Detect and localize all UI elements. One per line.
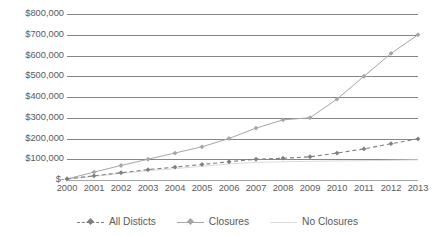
x-axis-tick-label: 2012 bbox=[381, 183, 402, 194]
series-container bbox=[67, 14, 418, 180]
x-axis-tick-labels: 2000200120022003200420052006200720082009… bbox=[67, 183, 418, 199]
legend-marker-diamond-icon bbox=[187, 218, 194, 225]
data-point-marker bbox=[281, 156, 286, 161]
data-point-marker bbox=[254, 126, 259, 131]
data-point-marker bbox=[119, 163, 124, 168]
legend-line bbox=[270, 222, 297, 223]
y-axis-tick-label: $500,000 bbox=[2, 71, 64, 80]
x-axis-tick-label: 2006 bbox=[219, 183, 240, 194]
y-axis-tick-label: $700,000 bbox=[2, 30, 64, 39]
data-point-marker bbox=[92, 173, 97, 178]
x-axis-tick-label: 2009 bbox=[300, 183, 321, 194]
y-axis-tick-label: $200,000 bbox=[2, 134, 64, 143]
legend-item-all-disticts[interactable]: All Disticts bbox=[77, 216, 156, 228]
data-point-marker bbox=[254, 157, 259, 162]
x-axis-tick-label: 2003 bbox=[138, 183, 159, 194]
legend-label: Closures bbox=[209, 216, 249, 228]
data-point-marker bbox=[146, 157, 151, 162]
legend-label: All Disticts bbox=[109, 216, 156, 228]
legend-item-no-closures[interactable]: No Closures bbox=[270, 216, 358, 228]
y-axis-tick-label: $800,000 bbox=[2, 9, 64, 18]
series-closures bbox=[65, 32, 421, 181]
y-axis-tick-label: $- bbox=[2, 175, 64, 184]
legend-label: No Closures bbox=[302, 216, 358, 228]
series-line bbox=[67, 160, 418, 179]
x-axis-tick-label: 2004 bbox=[165, 183, 186, 194]
x-axis-tick-label: 2010 bbox=[327, 183, 348, 194]
x-axis-line bbox=[67, 180, 418, 181]
x-axis-tick-label: 2002 bbox=[111, 183, 132, 194]
data-point-marker bbox=[227, 136, 232, 141]
series-line bbox=[67, 35, 418, 179]
y-axis-tick-label: $300,000 bbox=[2, 113, 64, 122]
legend-marker-diamond-icon bbox=[87, 218, 94, 225]
data-point-marker bbox=[362, 146, 367, 151]
plot-area bbox=[67, 14, 418, 180]
x-axis-tick-label: 2007 bbox=[246, 183, 267, 194]
x-axis-tick-label: 2013 bbox=[408, 183, 429, 194]
x-axis-tick-label: 2000 bbox=[57, 183, 78, 194]
x-axis-tick-label: 2005 bbox=[192, 183, 213, 194]
chart-legend: All DistictsClosuresNo Closures bbox=[0, 211, 435, 233]
x-axis-tick-label: 2008 bbox=[273, 183, 294, 194]
data-point-marker bbox=[416, 137, 421, 142]
legend-swatch-icon bbox=[270, 217, 297, 227]
legend-swatch-icon bbox=[77, 217, 104, 227]
y-axis-tick-label: $400,000 bbox=[2, 92, 64, 101]
x-axis-tick-label: 2011 bbox=[354, 183, 374, 194]
y-axis-tick-label: $600,000 bbox=[2, 51, 64, 60]
line-chart: $-$100,000$200,000$300,000$400,000$500,0… bbox=[0, 0, 435, 236]
data-point-marker bbox=[281, 117, 286, 122]
data-point-marker bbox=[335, 151, 340, 156]
series-all-disticts bbox=[65, 137, 421, 182]
series-no-closures bbox=[67, 160, 418, 179]
data-point-marker bbox=[389, 141, 394, 146]
legend-swatch-icon bbox=[177, 217, 204, 227]
y-axis-tick-label: $100,000 bbox=[2, 154, 64, 163]
y-axis-tick-labels: $-$100,000$200,000$300,000$400,000$500,0… bbox=[0, 0, 64, 236]
data-point-marker bbox=[173, 151, 178, 156]
data-point-marker bbox=[200, 144, 205, 149]
x-axis-tick-label: 2001 bbox=[84, 183, 105, 194]
legend-item-closures[interactable]: Closures bbox=[177, 216, 249, 228]
data-point-marker bbox=[119, 170, 124, 175]
data-point-marker bbox=[308, 154, 313, 159]
